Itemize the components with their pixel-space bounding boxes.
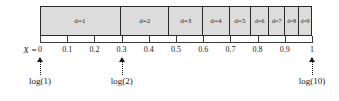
digit-segment: d=1 <box>40 7 122 35</box>
digit-segment-label: d=3 <box>180 17 191 25</box>
digit-segment: d=3 <box>169 7 203 35</box>
callout-stem <box>312 62 313 75</box>
axis-tick-label: 0.7 <box>225 45 235 54</box>
digit-segment: d=9 <box>299 7 311 35</box>
axis-tick-label: 0.3 <box>117 45 127 54</box>
digit-segment-label: d=5 <box>234 17 245 25</box>
callout-label: log(2) <box>111 76 133 86</box>
axis-tick-label: 0.1 <box>62 45 72 54</box>
callout-stem <box>40 62 41 75</box>
callout-label: log(1) <box>29 76 51 86</box>
axis-tick <box>67 36 68 43</box>
axis-tick <box>285 36 286 43</box>
digit-segment: d=8 <box>285 7 299 35</box>
digit-segment: d=6 <box>251 7 269 35</box>
digit-segment-label: d=7 <box>272 18 282 24</box>
digit-segment: d=7 <box>269 7 285 35</box>
axis-tick <box>122 36 123 43</box>
axis-tick-label: 0.9 <box>280 45 290 54</box>
axis-tick-label: 0.2 <box>89 45 99 54</box>
axis-tick <box>312 36 313 43</box>
digit-proportion-bar: d=1d=2d=3d=4d=5d=6d=7d=8d=9 <box>40 6 312 36</box>
digit-segment-label: d=9 <box>301 18 310 24</box>
callout-arrow-icon <box>37 57 43 62</box>
axis-tick-label: 0.4 <box>144 45 154 54</box>
digit-segment: d=4 <box>203 7 229 35</box>
callout-arrow-icon <box>309 57 315 62</box>
axis-tick <box>40 36 41 43</box>
digit-segment: d=2 <box>121 7 169 35</box>
axis-tick <box>258 36 259 43</box>
digit-segment-label: d=8 <box>287 18 296 24</box>
axis-tick <box>203 36 204 43</box>
axis-tick-label: 1 <box>310 45 314 54</box>
axis-tick-label: 0.5 <box>171 45 181 54</box>
digit-segment: d=5 <box>230 7 252 35</box>
benford-digit-scale-figure: d=1d=2d=3d=4d=5d=6d=7d=8d=9 00.10.20.30.… <box>0 0 339 101</box>
digit-segment-label: d=1 <box>74 17 85 25</box>
digit-segment-label: d=6 <box>255 18 265 24</box>
digit-segment-label: d=4 <box>210 17 221 25</box>
callout-stem <box>122 62 123 75</box>
axis-tick-label: 0.8 <box>253 45 263 54</box>
axis-tick <box>176 36 177 43</box>
axis-tick <box>94 36 95 43</box>
axis-tick <box>149 36 150 43</box>
callout-arrow-icon <box>119 57 125 62</box>
axis-variable-label: X = <box>23 45 37 55</box>
callout-label: log(10) <box>299 76 326 86</box>
axis-tick-label: 0 <box>38 45 42 54</box>
axis-tick-label: 0.6 <box>198 45 208 54</box>
axis-tick <box>230 36 231 43</box>
digit-segment-label: d=2 <box>139 17 150 25</box>
